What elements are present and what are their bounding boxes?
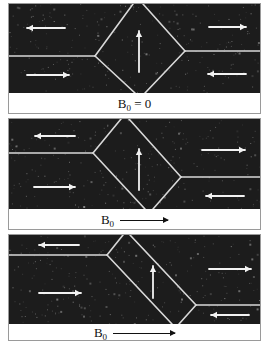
magnetization-arrow-icon — [239, 147, 245, 153]
field-relation: = 0 — [131, 95, 151, 113]
panel-weak-field: B0 — [8, 118, 261, 230]
panel-zero-field: B0 = 0 — [8, 3, 261, 114]
field-subscript: 0 — [103, 330, 108, 341]
magnetization-arrow-icon — [208, 71, 214, 77]
magnetization-arrow-icon — [245, 266, 251, 272]
domain-pattern-graphic — [9, 4, 260, 93]
field-direction-arrow-icon — [113, 333, 175, 334]
magnetization-arrow-icon — [211, 312, 217, 318]
panel-caption: B0 — [9, 211, 260, 229]
magnetization-arrow-icon — [75, 290, 81, 296]
field-subscript: 0 — [126, 99, 131, 117]
magnetization-arrow-icon — [136, 31, 142, 37]
field-direction-arrow-icon — [120, 220, 168, 221]
micrograph-photo — [9, 4, 260, 93]
micrograph-photo — [9, 119, 260, 209]
magnetization-arrow-icon — [63, 72, 69, 78]
micrograph-photo — [9, 235, 260, 324]
field-symbol: B — [101, 211, 110, 229]
magnetization-arrow-icon — [69, 184, 75, 190]
magnetization-arrow-icon — [39, 242, 45, 248]
panel-caption: B0 = 0 — [9, 95, 260, 113]
magnetization-arrow-icon — [136, 149, 142, 155]
panel-caption: B0 — [9, 326, 260, 340]
magnetization-arrow-icon — [240, 24, 246, 30]
field-symbol: B — [118, 95, 127, 113]
field-symbol: B — [94, 326, 103, 340]
domain-pattern-graphic — [9, 235, 260, 324]
field-subscript: 0 — [110, 215, 115, 233]
magnetization-arrow-icon — [206, 193, 212, 199]
panel-strong-field: B0 — [8, 234, 261, 341]
magnetization-arrow-icon — [27, 25, 33, 31]
magnetization-arrow-icon — [35, 133, 41, 139]
domain-pattern-graphic — [9, 119, 260, 209]
magnetization-arrow-icon — [150, 266, 156, 272]
